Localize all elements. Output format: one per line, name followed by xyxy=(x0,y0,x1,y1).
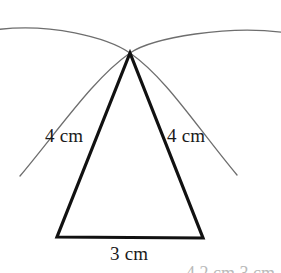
geometry-figure: 4 cm 4 cm 3 cm 4.2 cm 3 cm xyxy=(0,0,281,273)
left-side-length-label: 4 cm xyxy=(45,126,83,145)
base-length-label: 3 cm xyxy=(110,244,148,263)
compass-arc-from-right-vertex-icon xyxy=(0,28,237,175)
cut-off-footer-text: 4.2 cm 3 cm xyxy=(186,264,275,273)
right-side-length-label: 4 cm xyxy=(167,126,205,145)
geometry-canvas xyxy=(0,0,281,273)
